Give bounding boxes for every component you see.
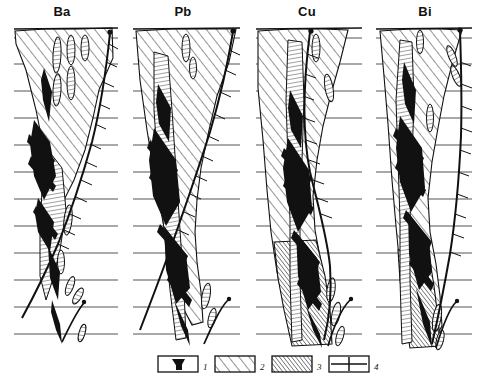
legend-swatch-2 (215, 356, 255, 372)
panel-title-ba: Ba (53, 4, 71, 19)
solid-ore-icon-stem (176, 359, 182, 370)
contour-endpoint-pb (227, 297, 231, 301)
contour-endpoint-ba (82, 300, 86, 304)
contour-endpoint-bi (455, 299, 459, 303)
geological-cross-section-figure: Ba Pb Cu Bi (0, 0, 479, 386)
panel-title-cu: Cu (298, 4, 316, 19)
contour-endpoint-cu (349, 297, 353, 301)
contour-top-point-ba (107, 29, 112, 34)
legend-label-3: 3 (316, 362, 322, 372)
contour-top-point-pb (230, 28, 235, 33)
surface-line-cu (256, 28, 362, 29)
surface-line-pb (133, 28, 240, 29)
legend-label-2: 2 (260, 362, 265, 372)
panel-title-pb: Pb (174, 4, 191, 19)
surface-line-bi (376, 28, 472, 29)
surface-line-ba (14, 28, 118, 29)
legend-label-4: 4 (374, 362, 379, 372)
panel-title-bi: Bi (418, 4, 432, 19)
legend-swatch-3 (272, 356, 312, 372)
legend-label-1: 1 (203, 362, 208, 372)
